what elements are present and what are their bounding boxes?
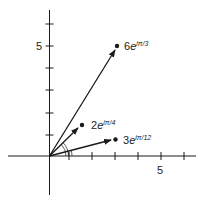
vector-3e-ipi-12-endpoint <box>113 137 117 141</box>
vector-6e-ipi-3 <box>50 50 116 156</box>
vector-label-2e-ipi-4: 2eiπ/4 <box>91 119 115 131</box>
angle-arcs <box>61 143 72 156</box>
x-tick-label-5: 5 <box>157 164 163 176</box>
vector-label-3e-ipi-12: 3eiπ/12 <box>123 134 151 146</box>
vector-3e-ipi-12 <box>50 140 112 156</box>
vector-6e-ipi-3-endpoint <box>115 44 119 48</box>
y-tick-label-5: 5 <box>36 40 42 52</box>
vector-label-6e-ipi-3: 6eiπ/3 <box>124 40 148 52</box>
complex-plane-diagram: 5 5 6eiπ/3 2eiπ/4 3eiπ/12 <box>0 0 209 205</box>
vector-2e-ipi-4-endpoint <box>80 123 84 127</box>
